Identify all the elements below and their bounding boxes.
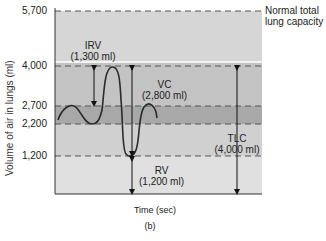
rv-label-line2: (1,200 ml) [134, 176, 189, 187]
y-axis-label: Volume of air in lungs (ml) [4, 60, 15, 176]
figure-caption: (b) [130, 221, 170, 232]
vc-label-line2: (2,800 ml) [137, 90, 192, 101]
tlc-label-line2: (4,000 ml) [212, 144, 262, 155]
rv-label-line1: RV [134, 165, 189, 176]
irv-label-line2: (1,300 ml) [68, 51, 118, 62]
ntlc-label-line1: Normal total [265, 5, 319, 16]
y-tick-5700: 5,700 [7, 6, 47, 16]
ntlc-label-line2: lung capacity [265, 16, 323, 27]
vc-label-line1: VC [137, 79, 192, 90]
irv-label-line1: IRV [68, 40, 118, 51]
tlc-label-line1: TLC [212, 133, 262, 144]
x-axis-label: Time (sec) [110, 205, 200, 216]
